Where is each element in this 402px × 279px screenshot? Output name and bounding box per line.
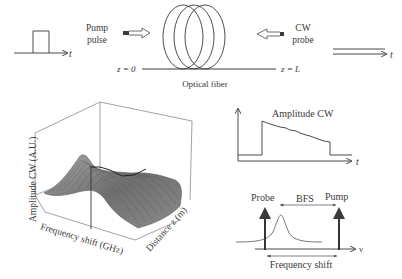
pump-spectrum-label: Pump xyxy=(325,191,348,202)
fiber-label: Optical fiber xyxy=(182,79,228,89)
plot3d-zlabel: Amplitude CW (A.U.) xyxy=(28,137,39,222)
zL-label: z = L xyxy=(280,64,300,74)
pulse-t-label: t xyxy=(69,48,72,59)
amp-plot-title: Amplitude CW xyxy=(272,108,334,119)
bocda-diagram: t Pump pulse z = 0 z = L Optical fiber C… xyxy=(0,0,402,279)
pump-label-line2: pulse xyxy=(87,35,107,45)
cw-label-line2: probe xyxy=(292,35,314,45)
pump-pulse-graph xyxy=(14,31,67,53)
bfs-label: BFS xyxy=(296,193,314,204)
cw-label-line1: CW xyxy=(295,23,310,33)
spectrum-xlabel: ν xyxy=(359,244,363,254)
brillouin-spectrum-graph xyxy=(236,205,355,256)
amp-plot-xlabel: t xyxy=(356,156,359,167)
pump-arrow-icon xyxy=(123,28,150,38)
pump-label-line1: Pump xyxy=(86,23,108,33)
cw-t-label: t xyxy=(390,49,393,60)
optical-fiber-coil xyxy=(142,5,276,69)
cw-probe-graph xyxy=(333,49,386,54)
cw-probe-arrow-icon xyxy=(257,29,284,39)
z0-label: z = 0 xyxy=(116,64,136,74)
freq-shift-label: Frequency shift xyxy=(270,259,333,270)
probe-label: Probe xyxy=(251,192,275,203)
plot3d-xlabel: Frequency shift (GHz) xyxy=(39,221,124,257)
